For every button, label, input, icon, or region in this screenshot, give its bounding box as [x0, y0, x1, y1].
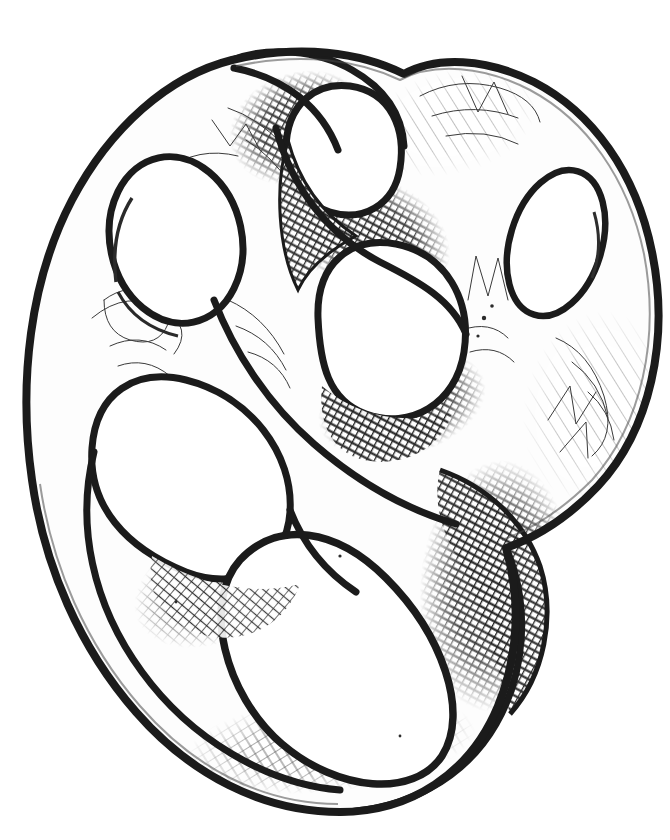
ink-sketch-artwork: Hand-drawn ink sketch genus-three topolo…	[0, 0, 670, 840]
sketch-canvas: Hand-drawn ink sketch genus-three topolo…	[0, 0, 670, 840]
